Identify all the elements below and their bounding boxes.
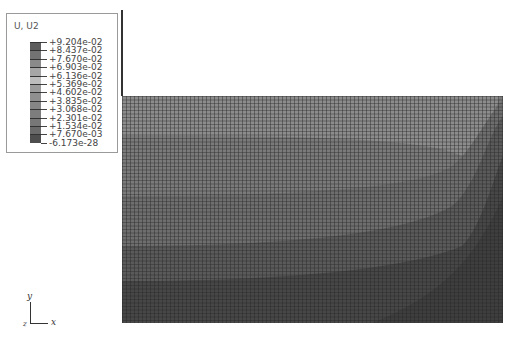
legend-swatch [30, 118, 41, 126]
coordinate-triad: y x z [22, 298, 82, 328]
legend-swatch [30, 59, 41, 67]
legend-swatch [30, 84, 41, 92]
legend-value-label: -6.173e-28 [41, 139, 103, 147]
legend-swatch [30, 50, 41, 58]
legend-swatch [30, 92, 41, 100]
legend-swatch [30, 126, 41, 134]
contour-legend: U, U2 +9.204e-02+8.437e-02+7.670e-02+6.9… [6, 13, 118, 153]
y-axis-label: y [27, 291, 32, 301]
legend-labels: +9.204e-02+8.437e-02+7.670e-02+6.903e-02… [41, 38, 103, 147]
legend-swatch [30, 67, 41, 75]
legend-swatch [30, 42, 41, 50]
legend-swatch [30, 109, 41, 117]
y-axis-arrow [30, 302, 31, 324]
legend-title: U, U2 [14, 21, 39, 31]
z-axis-label: z [23, 320, 27, 328]
model-edge-line [121, 10, 123, 96]
fe-mesh-contour-plot [122, 96, 503, 323]
mesh-canvas [122, 96, 503, 323]
legend-swatch [30, 76, 41, 84]
x-axis-arrow [30, 323, 48, 324]
x-axis-label: x [51, 317, 56, 327]
legend-swatch [30, 134, 41, 142]
legend-color-bar [30, 42, 41, 143]
legend-swatch [30, 101, 41, 109]
